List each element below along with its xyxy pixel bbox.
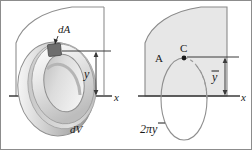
label-C: C: [180, 42, 187, 54]
dA-patch: [47, 43, 61, 56]
label-dA: dA: [58, 23, 71, 35]
label-dV: dV: [70, 123, 84, 135]
label-A: A: [155, 52, 163, 64]
centroid-dot: [182, 56, 187, 61]
label-ybar: y: [211, 70, 218, 84]
label-y: y: [83, 67, 90, 81]
pappus-theorem-figure: dA y x dV: [0, 0, 252, 150]
label-x-right: x: [240, 91, 246, 103]
label-x-left: x: [113, 91, 119, 103]
label-circumference: 2πy: [140, 122, 158, 136]
figure-container: dA y x dV: [0, 0, 252, 150]
